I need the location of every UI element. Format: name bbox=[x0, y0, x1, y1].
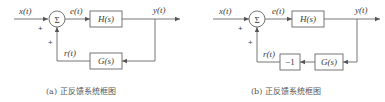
error-label: e(t) bbox=[272, 6, 285, 16]
feedback-sign: + bbox=[48, 38, 53, 47]
sum-symbol: Σ bbox=[54, 15, 59, 25]
gain-block-label: −1 bbox=[285, 57, 295, 67]
feedback-block-g-label: G(s) bbox=[321, 57, 337, 67]
input-sign: + bbox=[38, 24, 43, 33]
sum-symbol: Σ bbox=[254, 15, 259, 25]
error-label: e(t) bbox=[70, 6, 83, 16]
feedback-label: r(t) bbox=[64, 48, 76, 58]
forward-block-label: H(s) bbox=[97, 14, 114, 24]
caption-a: (a) 正反馈系统框图 bbox=[46, 86, 116, 96]
feedback-label: r(t) bbox=[263, 49, 275, 59]
block-diagrams: x(t) + Σ e(t) H(s) y(t) G(s) r(t) + (a) … bbox=[0, 0, 385, 102]
caption-b: (b) 正反馈系统框图 bbox=[251, 86, 321, 96]
feedback-branch bbox=[343, 19, 357, 62]
input-label: x(t) bbox=[18, 6, 32, 16]
diagram-b: x(t) + Σ e(t) H(s) y(t) G(s) −1 r(t) + (… bbox=[213, 5, 380, 96]
feedback-sign: + bbox=[248, 38, 253, 47]
output-label: y(t) bbox=[152, 5, 166, 15]
input-label: x(t) bbox=[218, 6, 232, 16]
diagram-a: x(t) + Σ e(t) H(s) y(t) G(s) r(t) + (a) … bbox=[14, 5, 180, 96]
output-label: y(t) bbox=[354, 5, 368, 15]
feedback-block-label: G(s) bbox=[98, 56, 114, 66]
feedback-branch bbox=[122, 19, 155, 61]
input-sign: + bbox=[238, 24, 243, 33]
forward-block-label: H(s) bbox=[299, 14, 316, 24]
